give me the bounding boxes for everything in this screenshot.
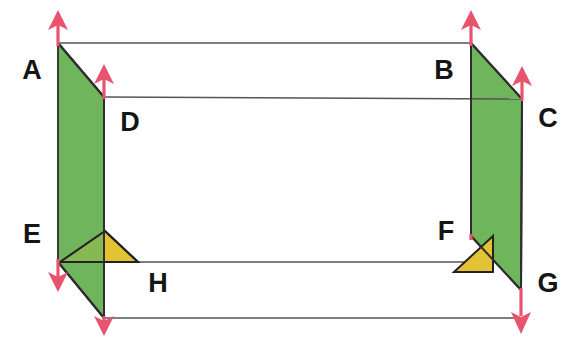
vertex-label-H: H [148,268,168,298]
geometry-diagram-svg: A B C D E F G H [0,0,572,340]
vertex-label-D: D [120,107,140,137]
vertex-label-F: F [438,216,455,246]
dimension-arrows [48,10,532,336]
edge-upper-inner-D-C [104,97,522,99]
vertex-label-A: A [22,55,42,85]
vertex-label-E: E [23,219,41,249]
vertex-label-G: G [537,268,558,298]
edge-C-G [521,99,522,290]
diagram-canvas: A B C D E F G H [0,0,572,340]
vertex-label-B: B [434,55,454,85]
vertex-label-C: C [538,103,558,133]
